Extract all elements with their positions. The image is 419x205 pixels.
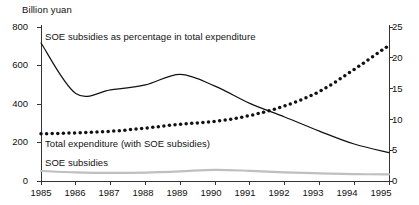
series-dot bbox=[56, 132, 60, 136]
series-dot bbox=[304, 96, 308, 100]
series-dot bbox=[267, 109, 271, 113]
series-dot bbox=[362, 61, 366, 64]
series-dot bbox=[283, 104, 287, 108]
series-dot bbox=[184, 122, 188, 126]
series-dot bbox=[329, 83, 333, 87]
series-dot bbox=[240, 115, 244, 119]
series-dot bbox=[112, 129, 116, 133]
series-dot bbox=[123, 128, 127, 132]
series-dot bbox=[229, 117, 233, 121]
series-dot bbox=[78, 131, 82, 135]
y-axis-right-ticks bbox=[389, 27, 393, 181]
series-dot bbox=[380, 49, 384, 53]
series-dot bbox=[207, 120, 211, 124]
series-dot bbox=[223, 118, 227, 122]
series-dot bbox=[289, 102, 293, 106]
series-dot bbox=[84, 131, 88, 135]
series-dot bbox=[234, 116, 238, 120]
series-line-percentage bbox=[41, 43, 389, 153]
series-dot bbox=[179, 122, 183, 126]
series-dot bbox=[352, 68, 356, 72]
x-axis-ticks bbox=[41, 181, 389, 185]
series-dot bbox=[324, 86, 328, 90]
series-dot bbox=[309, 94, 313, 98]
chart-figure: Billion yuan 800 600 400 200 0 25 20 15 … bbox=[0, 0, 419, 205]
series-dot bbox=[196, 121, 200, 125]
series-dot bbox=[151, 126, 155, 129]
series-dot bbox=[95, 130, 99, 134]
series-dot bbox=[101, 130, 105, 134]
series-dot bbox=[299, 98, 303, 102]
series-dot bbox=[190, 122, 194, 126]
series-dot bbox=[273, 107, 277, 111]
series-dot bbox=[173, 123, 177, 127]
series-dot bbox=[134, 127, 138, 131]
series-dot bbox=[145, 126, 149, 130]
series-dot bbox=[338, 77, 342, 81]
series-dot bbox=[245, 114, 249, 118]
series-dot bbox=[375, 52, 379, 56]
y-axis-left-ticks bbox=[37, 27, 41, 181]
series-line-total-expenditure bbox=[39, 45, 388, 135]
series-dot bbox=[348, 71, 352, 75]
series-dot bbox=[73, 131, 77, 135]
series-dot bbox=[371, 55, 375, 59]
series-line-soe-subsidies bbox=[41, 170, 389, 175]
series-dot bbox=[90, 131, 94, 135]
series-dot bbox=[168, 124, 172, 128]
series-dot bbox=[294, 100, 298, 104]
series-dot bbox=[201, 121, 205, 125]
series-dot bbox=[162, 124, 166, 128]
plot-area bbox=[0, 0, 419, 205]
series-dot bbox=[366, 58, 370, 62]
series-dot bbox=[106, 130, 110, 134]
series-dot bbox=[62, 132, 65, 136]
series-dot bbox=[129, 128, 133, 132]
series-dot bbox=[50, 132, 54, 136]
series-dot bbox=[218, 119, 222, 123]
series-dot bbox=[262, 110, 266, 114]
series-dot bbox=[357, 65, 361, 69]
series-dot bbox=[319, 89, 323, 93]
axis-lines bbox=[41, 25, 389, 181]
series-dot bbox=[334, 80, 338, 84]
series-dot bbox=[212, 120, 216, 124]
series-dot bbox=[39, 132, 43, 136]
series-dot bbox=[140, 127, 144, 131]
series-dot bbox=[314, 91, 318, 95]
series-dot bbox=[251, 113, 255, 117]
series-dot bbox=[118, 129, 122, 133]
series-dot bbox=[278, 106, 282, 110]
series-dot bbox=[67, 131, 71, 135]
series-dot bbox=[256, 112, 260, 116]
series-dot bbox=[157, 125, 161, 129]
series-dot bbox=[343, 74, 347, 78]
series-dot bbox=[385, 45, 389, 49]
series-dot bbox=[45, 132, 49, 136]
